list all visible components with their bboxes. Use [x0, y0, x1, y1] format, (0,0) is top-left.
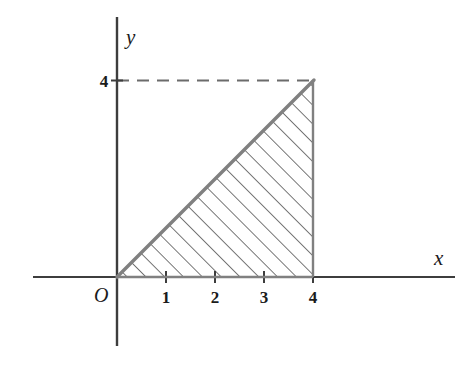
x-tick-label-3: 3	[260, 288, 269, 307]
x-axis-label: x	[433, 246, 444, 270]
x-tick-label-4: 4	[309, 288, 318, 307]
y-axis-label: y	[124, 25, 136, 49]
x-tick-label-2: 2	[211, 288, 220, 307]
y-tick-label-4: 4	[100, 72, 109, 91]
x-tick-label-1: 1	[162, 288, 171, 307]
coordinate-plane-svg: y x O 1 2 3 4 4	[0, 0, 472, 369]
math-figure: y x O 1 2 3 4 4	[0, 0, 472, 369]
origin-label: O	[94, 284, 108, 306]
